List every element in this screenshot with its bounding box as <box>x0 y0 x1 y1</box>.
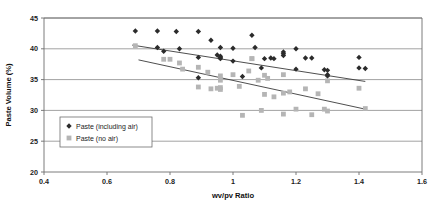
legend-label: Paste (no air) <box>76 135 118 143</box>
data-point-no-air <box>246 69 251 74</box>
y-axis-title: Paste Volume (%) <box>4 63 13 127</box>
data-point-no-air <box>325 109 330 114</box>
scatter-plot: 0.40.60.811.21.41.6 202530354045 wv/pv R… <box>0 0 442 205</box>
data-point-no-air <box>161 57 166 62</box>
x-axis-tick-label: 0.6 <box>102 177 112 186</box>
data-point-no-air <box>259 108 264 113</box>
data-point-no-air <box>218 78 223 83</box>
data-point-no-air <box>294 107 299 112</box>
data-point-no-air <box>177 61 182 66</box>
chart-legend: Paste (including air)Paste (no air) <box>60 117 152 147</box>
data-point-no-air <box>272 94 277 99</box>
data-point-no-air <box>218 87 223 92</box>
y-axis-tick-label: 25 <box>30 137 38 146</box>
x-axis-tick-label: 1.2 <box>291 177 301 186</box>
data-point-no-air <box>240 113 245 118</box>
legend-marker-no-air <box>67 136 72 141</box>
data-point-including-air <box>177 46 182 51</box>
data-point-including-air <box>252 45 257 50</box>
data-point-no-air <box>357 86 362 91</box>
data-point-including-air <box>309 55 314 60</box>
data-point-no-air <box>209 86 214 91</box>
data-point-including-air <box>230 45 235 50</box>
trend-no-air <box>139 60 366 109</box>
data-point-no-air <box>325 78 330 83</box>
data-point-including-air <box>208 37 213 42</box>
x-axis-tick-label: 1.6 <box>417 177 427 186</box>
legend-label: Paste (including air) <box>76 123 138 131</box>
x-axis-tick-label: 0.8 <box>165 177 175 186</box>
data-point-including-air <box>356 55 361 60</box>
data-point-including-air <box>303 55 308 60</box>
y-axis-tick-label: 20 <box>30 168 38 177</box>
data-point-no-air <box>168 57 173 62</box>
data-point-including-air <box>363 66 368 71</box>
y-axis-tick-label: 30 <box>30 106 38 115</box>
y-axis-tick-label: 35 <box>30 75 38 84</box>
y-axis-tick-label: 45 <box>30 14 38 23</box>
data-point-including-air <box>196 29 201 34</box>
x-axis-tick-labels: 0.40.60.811.21.41.6 <box>39 177 427 186</box>
data-point-including-air <box>293 46 298 51</box>
data-point-no-air <box>281 72 286 77</box>
data-point-including-air <box>230 58 235 63</box>
data-point-no-air <box>196 65 201 70</box>
data-point-including-air <box>155 28 160 33</box>
data-point-including-air <box>356 65 361 70</box>
x-axis-tick-label: 0.4 <box>39 177 49 186</box>
y-axis-tick-label: 40 <box>30 44 38 53</box>
data-point-no-air <box>205 70 210 75</box>
data-point-including-air <box>249 33 254 38</box>
data-point-no-air <box>262 92 267 97</box>
data-point-no-air <box>218 74 223 79</box>
data-point-no-air <box>287 90 292 95</box>
data-point-including-air <box>133 28 138 33</box>
data-point-no-air <box>237 84 242 89</box>
data-point-no-air <box>250 56 255 61</box>
data-point-no-air <box>265 76 270 81</box>
data-point-including-air <box>174 29 179 34</box>
x-axis-tick-label: 1 <box>231 177 235 186</box>
data-point-including-air <box>240 74 245 79</box>
data-point-no-air <box>196 85 201 90</box>
data-point-no-air <box>303 86 308 91</box>
x-axis-title: wv/pv Ratio <box>211 191 255 200</box>
data-point-no-air <box>309 112 314 117</box>
plot-frame <box>44 18 422 172</box>
data-point-no-air <box>316 91 321 96</box>
data-point-no-air <box>363 106 368 111</box>
legend-box <box>60 117 152 147</box>
data-point-including-air <box>262 56 267 61</box>
data-point-no-air <box>180 67 185 72</box>
chart-container: 0.40.60.811.21.41.6 202530354045 wv/pv R… <box>0 0 442 205</box>
trendlines <box>132 45 365 109</box>
data-point-including-air <box>218 45 223 50</box>
data-point-no-air <box>231 72 236 77</box>
series-paste-no-air <box>133 43 368 117</box>
data-point-no-air <box>281 91 286 96</box>
data-point-no-air <box>256 78 261 83</box>
data-point-no-air <box>281 112 286 117</box>
trend-including-air <box>132 45 365 81</box>
data-point-no-air <box>133 43 138 48</box>
x-axis-tick-label: 1.4 <box>354 177 364 186</box>
y-axis-tick-labels: 202530354045 <box>30 14 38 177</box>
data-point-including-air <box>259 65 264 70</box>
